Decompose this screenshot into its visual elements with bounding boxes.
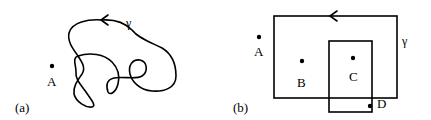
point-a-label: A xyxy=(47,74,57,89)
panel-a: γ A (a) xyxy=(15,15,176,115)
panel-a-caption: (a) xyxy=(15,100,29,115)
point-a-dot xyxy=(50,64,54,68)
point-b-label: B xyxy=(297,75,306,90)
panel-b-caption: (b) xyxy=(233,100,248,115)
point-d-dot xyxy=(368,104,372,108)
panel-b: γ A B C D (b) xyxy=(233,11,408,115)
point-c-label: C xyxy=(349,69,358,84)
closed-curve-gamma xyxy=(69,20,176,107)
point-a-label: A xyxy=(254,44,264,59)
curve-label-gamma: γ xyxy=(401,34,408,48)
winding-number-diagram: γ A (a) γ A B C D (b) xyxy=(0,0,431,120)
point-a-dot xyxy=(257,35,261,39)
point-c-dot xyxy=(351,56,355,60)
point-d-label: D xyxy=(377,96,386,111)
outer-rectangle-gamma xyxy=(274,16,397,98)
curve-label-gamma: γ xyxy=(125,16,132,30)
point-b-dot xyxy=(300,59,304,63)
